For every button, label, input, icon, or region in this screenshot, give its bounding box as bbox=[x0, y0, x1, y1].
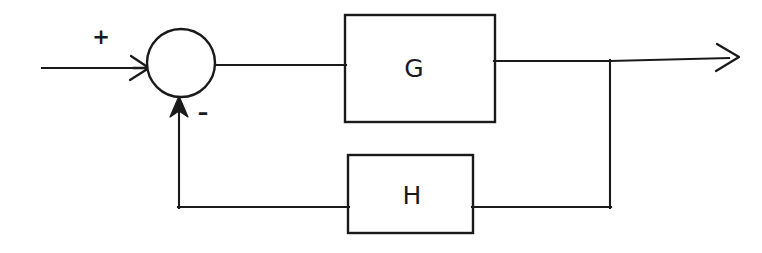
minus-sign-label: – bbox=[198, 101, 209, 125]
block-diagram-svg: G H + – bbox=[0, 0, 762, 253]
plus-sign-label: + bbox=[92, 25, 110, 49]
summing-junction bbox=[147, 29, 215, 97]
forward-block-label: G bbox=[404, 54, 423, 83]
block-diagram-canvas: G H + – bbox=[0, 0, 762, 253]
feedback-block-label: H bbox=[403, 181, 422, 210]
output-signal-line bbox=[610, 58, 729, 61]
